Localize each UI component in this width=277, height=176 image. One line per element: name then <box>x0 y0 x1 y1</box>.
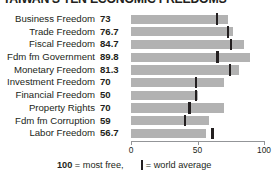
chart-row: Financial Freedom50 <box>0 89 277 102</box>
world-average-marker <box>195 77 197 89</box>
value-bar <box>131 91 198 100</box>
chart-row: Investment Freedom70 <box>0 76 277 89</box>
x-axis-tick <box>198 141 199 145</box>
world-average-marker <box>184 115 186 127</box>
row-value: 70 <box>100 76 126 89</box>
world-average-marker <box>188 102 190 114</box>
row-track <box>131 64 264 77</box>
value-bar <box>131 78 224 87</box>
economic-freedoms-chart: TAIWAN'S TEN ECONOMIC FREEDOMS Business … <box>0 0 277 176</box>
legend-world-average-label: = world average <box>146 158 212 172</box>
row-track <box>131 38 264 51</box>
world-average-marker <box>227 26 229 38</box>
row-track <box>131 127 264 140</box>
value-bar <box>131 40 244 49</box>
row-track <box>131 89 264 102</box>
row-value: 89.8 <box>100 51 126 64</box>
row-label: Labor Freedom <box>0 127 95 140</box>
x-axis-tick-label: 0 <box>129 145 134 155</box>
x-axis-tick-label: 100 <box>257 145 271 155</box>
world-average-marker <box>230 39 232 51</box>
world-average-marker <box>195 90 197 102</box>
value-bar <box>131 65 239 74</box>
row-label: Fdm fm Corruption <box>0 115 95 128</box>
chart-row: Business Freedom73 <box>0 13 277 26</box>
row-label: Fdm fm Government <box>0 51 95 64</box>
row-label: Trade Freedom <box>0 26 95 39</box>
row-value: 56.7 <box>100 127 126 140</box>
chart-row: Labor Freedom56.7 <box>0 127 277 140</box>
row-label: Fiscal Freedom <box>0 38 95 51</box>
row-label: Property Rights <box>0 102 95 115</box>
world-average-marker-icon <box>141 160 143 170</box>
value-bar <box>131 27 233 36</box>
chart-row: Fiscal Freedom84.7 <box>0 38 277 51</box>
world-average-marker <box>216 13 218 25</box>
row-value: 70 <box>100 102 126 115</box>
row-track <box>131 13 264 26</box>
row-label: Business Freedom <box>0 13 95 26</box>
chart-rows: Business Freedom73Trade Freedom76.7Fisca… <box>0 13 277 140</box>
world-average-marker <box>229 64 231 76</box>
chart-title: TAIWAN'S TEN ECONOMIC FREEDOMS <box>3 0 277 6</box>
value-bar <box>131 103 224 112</box>
x-axis-tick <box>264 141 265 145</box>
chart-row: Trade Freedom76.7 <box>0 26 277 39</box>
row-value: 50 <box>100 89 126 102</box>
chart-row: Fdm fm Government89.8 <box>0 51 277 64</box>
world-average-marker <box>216 51 218 63</box>
chart-row: Fdm fm Corruption59 <box>0 115 277 128</box>
chart-legend: 100 = most free, = world average <box>0 158 277 172</box>
row-value: 59 <box>100 115 126 128</box>
row-label: Financial Freedom <box>0 89 95 102</box>
chart-row: Property Rights70 <box>0 102 277 115</box>
row-track <box>131 76 264 89</box>
legend-most-free-value: 100 <box>57 158 72 172</box>
row-track <box>131 115 264 128</box>
row-value: 73 <box>100 13 126 26</box>
chart-row: Monetary Freedom81.3 <box>0 64 277 77</box>
legend-inner: 100 = most free, = world average <box>57 158 211 172</box>
x-axis: 050100 <box>131 141 264 145</box>
legend-most-free-label: = most free, <box>75 158 124 172</box>
value-bar <box>131 15 228 24</box>
value-bar <box>131 116 209 125</box>
row-track <box>131 51 264 64</box>
row-track <box>131 102 264 115</box>
row-value: 84.7 <box>100 38 126 51</box>
row-value: 76.7 <box>100 26 126 39</box>
row-label: Investment Freedom <box>0 76 95 89</box>
world-average-marker <box>211 128 213 140</box>
value-bar <box>131 129 206 138</box>
x-axis-tick-label: 50 <box>193 145 202 155</box>
row-value: 81.3 <box>100 64 126 77</box>
x-axis-tick <box>131 141 132 145</box>
row-label: Monetary Freedom <box>0 64 95 77</box>
row-track <box>131 26 264 39</box>
value-bar <box>131 53 250 62</box>
